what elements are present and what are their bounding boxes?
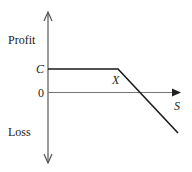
- loss-label: Loss: [8, 125, 31, 139]
- payoff-diagram: Profit Loss C 0 X S: [0, 0, 192, 172]
- s-axis: [48, 89, 181, 97]
- x-kink-label: X: [111, 73, 120, 87]
- zero-tick-label: 0: [38, 86, 44, 100]
- s-axis-label: S: [174, 99, 180, 113]
- c-tick-label: C: [36, 62, 45, 76]
- profit-loss-axis: [44, 12, 52, 163]
- right-arrow-icon: [172, 89, 181, 97]
- profit-label: Profit: [8, 33, 36, 47]
